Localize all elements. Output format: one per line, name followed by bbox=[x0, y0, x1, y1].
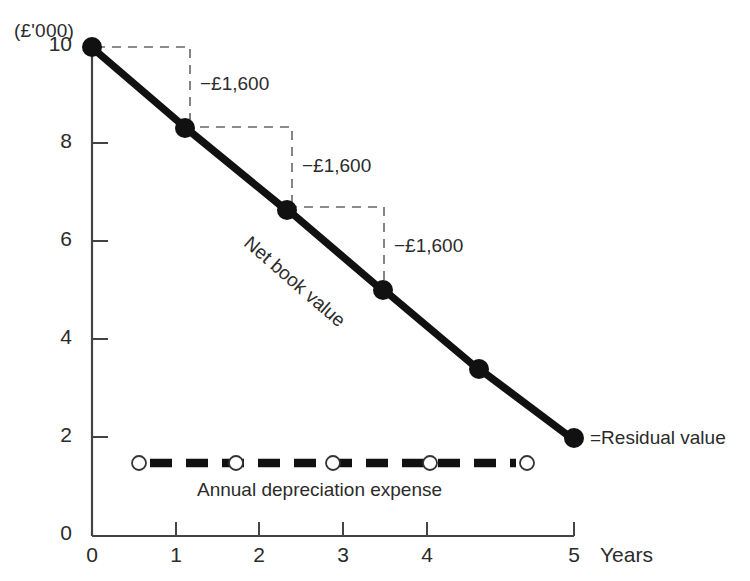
x-tick-label-3: 3 bbox=[323, 543, 363, 567]
step-annotation-year-2: −£1,600 bbox=[302, 155, 371, 177]
residual-value-label: =Residual value bbox=[590, 427, 726, 449]
y-axis-ticks bbox=[92, 143, 108, 437]
step-annotation-year-3: −£1,600 bbox=[394, 235, 463, 257]
x-tick-label-1: 1 bbox=[156, 543, 196, 567]
x-axis-title: Years bbox=[600, 543, 653, 567]
y-tick-label-6: 6 bbox=[22, 227, 72, 251]
net-book-value-line bbox=[96, 51, 566, 434]
chart-root: (£'000) bbox=[0, 0, 750, 581]
y-tick-label-0: 0 bbox=[22, 521, 72, 545]
annual-depreciation-label: Annual depreciation expense bbox=[197, 479, 442, 501]
step-annotation-year-1: −£1,600 bbox=[200, 73, 269, 95]
x-tick-label-5: 5 bbox=[554, 543, 594, 567]
x-tick-label-2: 2 bbox=[239, 543, 279, 567]
y-tick-label-10: 10 bbox=[22, 32, 72, 56]
y-tick-label-4: 4 bbox=[22, 325, 72, 349]
y-tick-label-2: 2 bbox=[22, 423, 72, 447]
y-tick-label-8: 8 bbox=[22, 129, 72, 153]
x-tick-label-0: 0 bbox=[72, 543, 112, 567]
x-axis-ticks bbox=[92, 522, 574, 536]
x-tick-label-4: 4 bbox=[407, 543, 447, 567]
